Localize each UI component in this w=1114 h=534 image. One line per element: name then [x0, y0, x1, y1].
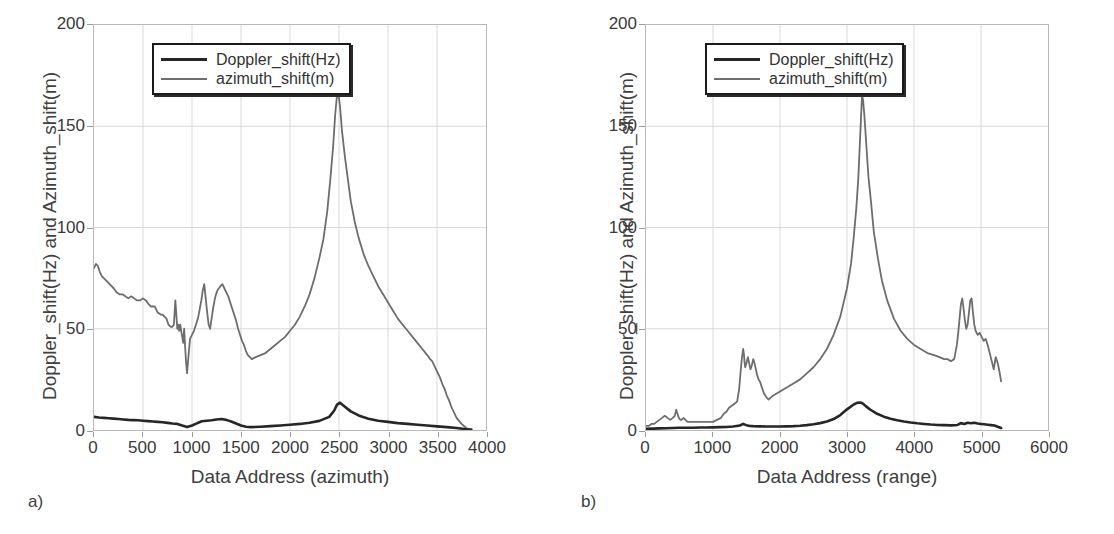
legend-label: Doppler_shift(Hz) [216, 50, 340, 69]
x-tick-label: 2000 [761, 438, 799, 458]
x-tick-mark [487, 432, 488, 437]
legend-b: Doppler_shift(Hz)azimuth_shift(m) [705, 43, 904, 95]
x-tick-label: 2500 [320, 438, 358, 458]
x-tick-mark [339, 432, 340, 437]
x-tick-mark [241, 432, 242, 437]
x-tick-mark [780, 432, 781, 437]
x-tick-mark [192, 432, 193, 437]
x-tick-label: 1000 [693, 438, 731, 458]
panel-a: Doppler_shift(Hz) and Azimuth_shift(m) 0… [0, 0, 557, 534]
y-tick-label: 50 [41, 319, 85, 339]
y-tick-mark [639, 24, 645, 25]
x-tick-mark [389, 432, 390, 437]
x-tick-mark [438, 432, 439, 437]
legend-item: azimuth_shift(m) [161, 69, 340, 88]
x-tick-label: 0 [88, 438, 97, 458]
x-tick-mark [290, 432, 291, 437]
y-tick-label: 200 [41, 14, 85, 34]
y-tick-label: 50 [593, 319, 637, 339]
x-tick-mark [142, 432, 143, 437]
series-line [94, 92, 471, 430]
legend-a: Doppler_shift(Hz)azimuth_shift(m) [152, 43, 351, 95]
x-tick-label: 500 [128, 438, 156, 458]
x-tick-label: 3500 [419, 438, 457, 458]
y-tick-label: 0 [593, 421, 637, 441]
x-tick-label: 0 [640, 438, 649, 458]
x-axis-label-a: Data Address (azimuth) [93, 466, 487, 488]
x-tick-label: 4000 [895, 438, 933, 458]
y-tick-mark [639, 126, 645, 127]
x-tick-label: 2000 [271, 438, 309, 458]
y-tick-mark [639, 329, 645, 330]
y-tick-label: 150 [41, 116, 85, 136]
series-line [646, 96, 1001, 426]
legend-swatch-icon [161, 58, 207, 61]
y-tick-label: 200 [593, 14, 637, 34]
figure-container: Doppler_shift(Hz) and Azimuth_shift(m) 0… [0, 0, 1114, 534]
x-tick-label: 1000 [173, 438, 211, 458]
y-tick-label: 0 [41, 421, 85, 441]
x-tick-label: 4000 [468, 438, 506, 458]
y-tick-mark [639, 228, 645, 229]
x-tick-mark [645, 432, 646, 437]
x-tick-label: 3000 [828, 438, 866, 458]
x-tick-mark [914, 432, 915, 437]
y-tick-mark [87, 126, 93, 127]
legend-label: azimuth_shift(m) [769, 69, 887, 88]
x-tick-label: 3000 [370, 438, 408, 458]
series-line [94, 403, 471, 430]
legend-swatch-icon [714, 78, 760, 80]
x-tick-label: 1500 [222, 438, 260, 458]
series-line [646, 402, 1001, 428]
panel-caption-a: a) [28, 492, 43, 512]
y-tick-label: 100 [41, 218, 85, 238]
panel-b: Doppler_shift(Hz) and Azimuth_shift(m) 0… [557, 0, 1114, 534]
x-tick-mark [93, 432, 94, 437]
x-tick-mark [847, 432, 848, 437]
legend-label: Doppler_shift(Hz) [769, 50, 893, 69]
legend-label: azimuth_shift(m) [216, 69, 334, 88]
y-tick-mark [87, 329, 93, 330]
x-tick-mark [712, 432, 713, 437]
y-tick-mark [87, 228, 93, 229]
legend-item: azimuth_shift(m) [714, 69, 893, 88]
y-tick-mark [87, 24, 93, 25]
legend-swatch-icon [161, 78, 207, 80]
x-tick-mark [982, 432, 983, 437]
legend-item: Doppler_shift(Hz) [714, 50, 893, 69]
x-tick-mark [1049, 432, 1050, 437]
y-tick-label: 150 [593, 116, 637, 136]
y-tick-label: 100 [593, 218, 637, 238]
legend-swatch-icon [714, 58, 760, 61]
x-tick-label: 6000 [1030, 438, 1068, 458]
x-axis-label-b: Data Address (range) [645, 466, 1049, 488]
panel-caption-b: b) [581, 492, 596, 512]
legend-item: Doppler_shift(Hz) [161, 50, 340, 69]
x-tick-label: 5000 [963, 438, 1001, 458]
